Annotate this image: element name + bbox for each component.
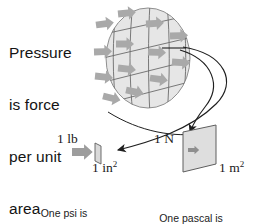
large-area-exponent: 2 (240, 159, 245, 169)
pascal-caption-line-1: One pascal is (130, 212, 252, 224)
psi-caption-line-1: One psi is (5, 207, 123, 220)
large-area-patch (183, 125, 216, 172)
pressure-diagram: Pressure is force per unit area 1 lb 1 i… (0, 0, 255, 224)
small-area-label: 1 in2 (92, 160, 117, 175)
title-line-1: Pressure (9, 44, 72, 61)
title-line-3: per unit (9, 148, 72, 165)
large-area-label: 1 m2 (219, 160, 244, 175)
title-line-2: is force (9, 96, 72, 113)
small-area-label-text: 1 in (92, 160, 113, 175)
small-area-force-label: 1 lb (57, 131, 78, 146)
small-area-exponent: 2 (113, 159, 118, 169)
psi-caption: One psi is one pound per square inch. (5, 180, 123, 224)
large-area-label-text: 1 m (219, 160, 240, 175)
small-force-arrow (72, 144, 93, 160)
large-area-force-label: 1 N (154, 131, 174, 146)
large-area-patch-group (183, 125, 216, 172)
gridded-sphere (94, 3, 197, 115)
pascal-caption: One pascal is one newton per square mete… (130, 185, 252, 224)
